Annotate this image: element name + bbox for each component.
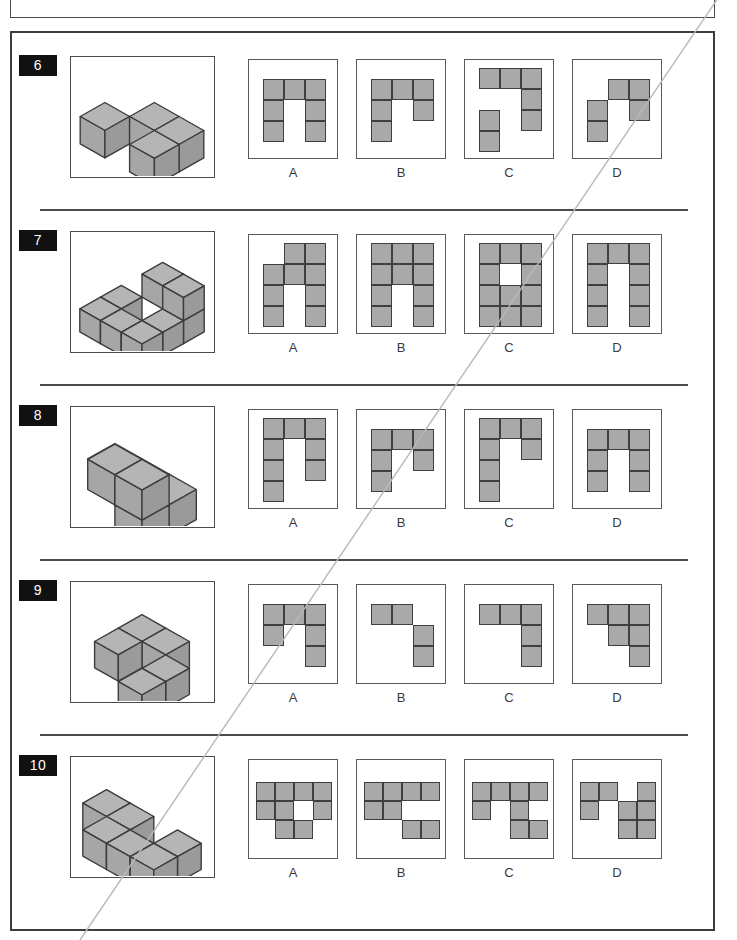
net-cell-empty [521, 460, 542, 481]
net-cell-filled [521, 604, 542, 625]
net-cell-filled [587, 285, 608, 306]
net-cell-filled [479, 604, 500, 625]
net-cell-empty [263, 646, 284, 667]
net-cell-filled [521, 418, 542, 439]
net-cell-filled [587, 604, 608, 625]
option-box-a[interactable] [248, 59, 338, 159]
option-net-grid [587, 79, 650, 142]
option-net-grid [587, 604, 650, 667]
net-cell-empty [383, 820, 402, 839]
net-cell-empty [529, 801, 548, 820]
net-cell-filled [629, 79, 650, 100]
net-cell-empty [392, 646, 413, 667]
net-cell-empty [392, 625, 413, 646]
net-cell-filled [629, 264, 650, 285]
net-cell-filled [305, 418, 326, 439]
net-cell-empty [587, 79, 608, 100]
net-cell-empty [587, 625, 608, 646]
option-box-d[interactable] [572, 59, 662, 159]
net-cell-empty [263, 243, 284, 264]
option-box-c[interactable] [464, 234, 554, 334]
net-cell-empty [500, 89, 521, 110]
row-separator [40, 559, 688, 561]
option-net-grid [364, 782, 440, 839]
net-cell-filled [371, 429, 392, 450]
net-cell-empty [599, 820, 618, 839]
net-cell-filled [413, 285, 434, 306]
net-cell-filled [413, 100, 434, 121]
net-cell-filled [263, 121, 284, 142]
option-box-d[interactable] [572, 234, 662, 334]
net-cell-filled [587, 450, 608, 471]
option-net-grid [263, 79, 326, 142]
net-cell-filled [500, 418, 521, 439]
option-net-grid [263, 418, 326, 502]
net-cell-filled [608, 604, 629, 625]
net-cell-filled [371, 264, 392, 285]
net-cell-filled [263, 100, 284, 121]
net-cell-filled [629, 306, 650, 327]
option-box-c[interactable] [464, 584, 554, 684]
option-box-b[interactable] [356, 759, 446, 859]
net-cell-filled [587, 471, 608, 492]
option-box-b[interactable] [356, 584, 446, 684]
net-cell-empty [256, 820, 275, 839]
option-box-a[interactable] [248, 584, 338, 684]
net-cell-filled [284, 243, 305, 264]
net-cell-filled [491, 782, 510, 801]
net-cell-filled [413, 264, 434, 285]
net-cell-filled [371, 100, 392, 121]
option-box-a[interactable] [248, 234, 338, 334]
worksheet-page: Pictures 4 6ABCD7ABCD8ABCD9ABCD10ABCD [0, 0, 737, 940]
net-cell-filled [371, 471, 392, 492]
net-cell-filled [521, 285, 542, 306]
option-net-grid [472, 782, 548, 839]
option-box-b[interactable] [356, 409, 446, 509]
net-cell-empty [599, 801, 618, 820]
option-label-b: B [356, 165, 446, 180]
option-net-grid [263, 243, 326, 327]
option-box-d[interactable] [572, 409, 662, 509]
net-cell-filled [305, 285, 326, 306]
option-label-a: A [248, 515, 338, 530]
net-cell-filled [402, 820, 421, 839]
net-cell-filled [629, 429, 650, 450]
net-cell-filled [500, 306, 521, 327]
option-box-d[interactable] [572, 584, 662, 684]
net-cell-filled [305, 625, 326, 646]
net-cell-filled [599, 782, 618, 801]
net-cell-filled [305, 460, 326, 481]
net-cell-empty [413, 604, 434, 625]
net-cell-empty [392, 121, 413, 142]
net-cell-empty [421, 801, 440, 820]
net-cell-filled [637, 801, 656, 820]
option-box-a[interactable] [248, 409, 338, 509]
net-cell-empty [413, 471, 434, 492]
net-cell-filled [587, 243, 608, 264]
net-cell-filled [371, 79, 392, 100]
net-cell-filled [629, 100, 650, 121]
net-cell-filled [371, 306, 392, 327]
option-box-d[interactable] [572, 759, 662, 859]
net-cell-empty [608, 264, 629, 285]
option-box-c[interactable] [464, 759, 554, 859]
net-cell-filled [263, 418, 284, 439]
net-cell-filled [284, 79, 305, 100]
net-cell-filled [371, 121, 392, 142]
net-cell-filled [521, 264, 542, 285]
option-box-c[interactable] [464, 59, 554, 159]
question-row: 6ABCD [12, 47, 713, 222]
option-box-b[interactable] [356, 59, 446, 159]
net-cell-filled [521, 306, 542, 327]
option-label-d: D [572, 865, 662, 880]
net-cell-empty [500, 481, 521, 502]
net-cell-filled [421, 782, 440, 801]
net-cell-empty [371, 625, 392, 646]
option-box-b[interactable] [356, 234, 446, 334]
option-net-grid [587, 429, 650, 492]
option-box-a[interactable] [248, 759, 338, 859]
option-label-b: B [356, 340, 446, 355]
net-cell-filled [637, 782, 656, 801]
option-box-c[interactable] [464, 409, 554, 509]
net-cell-filled [587, 121, 608, 142]
